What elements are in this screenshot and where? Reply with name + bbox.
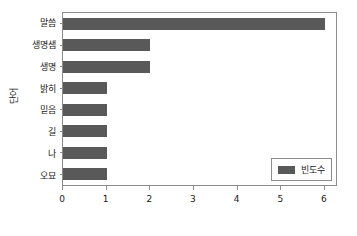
y-tickmark (60, 23, 63, 24)
y-tick-label: 밝히 (20, 77, 60, 99)
bar-row (63, 99, 336, 121)
y-tickmark (60, 45, 63, 46)
legend-label-frequency: 빈도수 (301, 163, 325, 176)
x-tickmark (237, 186, 238, 190)
y-tick-label: 말씀 (20, 12, 60, 34)
bar (63, 61, 150, 73)
x-tick-label: 6 (321, 194, 327, 204)
bar (63, 125, 107, 137)
y-tickmark (60, 109, 63, 110)
x-tickmark (280, 186, 281, 190)
bar (63, 18, 325, 30)
bar-row (63, 78, 336, 100)
bar-row (63, 13, 336, 35)
x-axis: 0123456 (62, 186, 337, 226)
x-tickmark (106, 186, 107, 190)
bar-row (63, 35, 336, 57)
y-tick-label: 길 (20, 121, 60, 143)
x-tick-label: 0 (59, 194, 65, 204)
x-tick-label: 1 (103, 194, 109, 204)
x-tickmark (149, 186, 150, 190)
legend: 빈도수 (271, 158, 332, 181)
x-tickmark (193, 186, 194, 190)
y-tickmark (60, 88, 63, 89)
x-tickmark (324, 186, 325, 190)
bar (63, 104, 107, 116)
x-tick-label: 3 (190, 194, 196, 204)
y-tickmark (60, 131, 63, 132)
bar (63, 82, 107, 94)
y-tick-label: 믿음 (20, 99, 60, 121)
bar-row (63, 56, 336, 78)
bar (63, 147, 107, 159)
plot-area: 빈도수 (62, 12, 337, 186)
y-tick-label: 오묘 (20, 164, 60, 186)
y-axis-title-label: 단어 (7, 87, 20, 103)
x-tick-label: 5 (277, 194, 283, 204)
bar (63, 39, 150, 51)
y-tick-label: 나 (20, 143, 60, 165)
y-tick-label: 생명 (20, 56, 60, 78)
legend-swatch-frequency (278, 166, 295, 174)
bar-chart: 단어 말씀생명샘생명밝히믿음길나오묘 빈도수 0123456 (0, 0, 357, 236)
x-tickmark (62, 186, 63, 190)
y-tickmark (60, 174, 63, 175)
x-tick-label: 2 (146, 194, 152, 204)
bar-row (63, 121, 336, 143)
y-tickmark (60, 152, 63, 153)
y-tickmark (60, 66, 63, 67)
y-tick-label: 생명샘 (20, 34, 60, 56)
x-tick-label: 4 (234, 194, 240, 204)
bar (63, 168, 107, 180)
y-axis-tick-labels: 말씀생명샘생명밝히믿음길나오묘 (20, 12, 60, 186)
